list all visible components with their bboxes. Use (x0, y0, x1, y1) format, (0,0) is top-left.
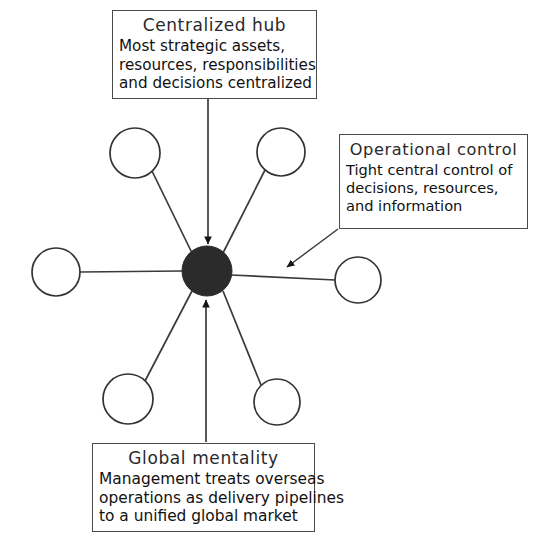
callout-centralized-hub: Centralized hub Most strategic assets, r… (112, 10, 317, 99)
operational-control-arrow (287, 229, 338, 267)
callout-global-mentality-title: Global mentality (99, 448, 308, 469)
callout-operational-control-body: Tight central control of decisions, reso… (346, 161, 521, 215)
callout-line: Most strategic assets, (119, 37, 310, 56)
spoke-node-bottom-left (103, 374, 153, 424)
spoke-node-bottom-right (254, 379, 300, 425)
callout-line: resources, responsibilities (119, 56, 310, 75)
spoke-line-bottom-right (223, 291, 261, 385)
callout-global-mentality-body: Management treats overseas operations as… (99, 470, 308, 526)
callout-centralized-hub-title: Centralized hub (119, 15, 310, 36)
callout-centralized-hub-body: Most strategic assets, resources, respon… (119, 37, 310, 93)
callout-global-mentality: Global mentality Management treats overs… (92, 443, 315, 532)
callout-line: and information (346, 197, 521, 215)
callout-line: and decisions centralized (119, 74, 310, 93)
spoke-line-bottom-left (145, 291, 192, 381)
callout-line: to a unified global market (99, 507, 308, 526)
spoke-line-top-left (152, 171, 192, 253)
callout-line: decisions, resources, (346, 179, 521, 197)
spoke-line-left (80, 271, 182, 272)
callout-line: Tight central control of (346, 161, 521, 179)
spoke-line-top-right (223, 170, 265, 253)
callout-line: Management treats overseas (99, 470, 308, 489)
spoke-node-top-right (257, 128, 305, 176)
spoke-line-right (231, 275, 335, 280)
callout-operational-control: Operational control Tight central contro… (339, 134, 528, 229)
callout-line: operations as delivery pipelines (99, 489, 308, 508)
spoke-node-top-left (110, 128, 160, 178)
callout-operational-control-title: Operational control (346, 139, 521, 160)
central-hub-node (182, 246, 232, 296)
spoke-node-right (335, 257, 381, 303)
spoke-node-left (32, 248, 80, 296)
